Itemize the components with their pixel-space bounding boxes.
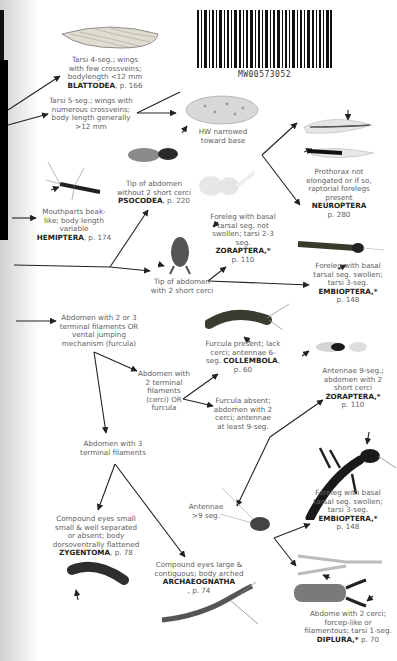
- node-zoraptera-2: Antennae 9-seg.; abdomen with 2 short ce…: [316, 367, 390, 410]
- taxon-name: PSOCODEA: [118, 196, 162, 205]
- node-hw-narrowed: HW narrowed toward base: [195, 128, 251, 145]
- blattodea-wing-image: [60, 22, 160, 52]
- node-hemiptera: Mouthparts beak-like; body length variab…: [36, 208, 112, 242]
- node-text: Foreleg with basal tarsal seg. swollen; …: [313, 261, 382, 287]
- node-text: Foreleg with basal tarsal seg. not swoll…: [210, 212, 275, 247]
- embioptera-winged-image: [296, 232, 386, 262]
- arrow-to-lacewing: [262, 123, 297, 155]
- node-archaeognatha: Compound eyes large & contiguous; body a…: [154, 561, 244, 595]
- node-text: Foreleg with basal tarsal seg. swollen; …: [313, 488, 382, 514]
- barcode-number: MW00573052: [197, 70, 332, 79]
- node-text: Tip of abdomen with 2 short cerci: [151, 277, 213, 295]
- page-edge: [0, 60, 8, 240]
- arrow-to-psocodea: [110, 210, 148, 267]
- taxon-name: DIPLURA,*: [317, 635, 359, 644]
- node-psocodea: Tip of abdomen without 2 short cerci PSO…: [112, 180, 196, 206]
- barcode-icon: [197, 10, 332, 68]
- page-ref: p. 148: [337, 295, 360, 304]
- collembola-image: [205, 302, 293, 338]
- node-text: HW narrowed toward base: [199, 127, 248, 145]
- node-text: Abdome with 2 cerci; forcep-like or fila…: [304, 609, 392, 635]
- pointer-zoraptera2: [302, 351, 309, 356]
- node-text: Furcula absent; abdomen with 2 cerci; an…: [214, 396, 272, 431]
- diplura-forcep-image: [292, 578, 372, 608]
- node-tarsi5: Tarsi 5-seg.; wings with numerous crossv…: [44, 97, 138, 131]
- node-blattodea: Tarsi 4-seg.; wings with few crossveins;…: [66, 56, 144, 90]
- page-ref: p. 110: [232, 255, 255, 264]
- arrow-to-zygentoma: [98, 464, 115, 510]
- abdomen-tip-image: [168, 236, 192, 276]
- page-ref: , p. 166: [115, 81, 142, 90]
- node-diplura: Abdome with 2 cerci; forcep-like or fila…: [303, 610, 393, 644]
- arrow-to-embioptera2: [274, 524, 310, 538]
- node-collembola: Furcula present; lack cerci; antennae 6-…: [205, 340, 281, 374]
- page-ref: p. 148: [337, 522, 360, 531]
- arrow-to-neuroptera: [262, 155, 300, 205]
- node-text: Tip of abdomen without 2 short cerci: [117, 179, 191, 197]
- arrow-to-tip2cerci: [110, 267, 150, 271]
- arrow-from-tarsi5-up: [137, 92, 180, 113]
- node-text: Compound eyes large & contiguous; body a…: [155, 560, 244, 578]
- node-text: Compound eyes small small & well separat…: [53, 514, 140, 549]
- node-antennae-9: Antennae >9 seg.: [186, 503, 226, 520]
- node-furcula-absent: Furcula absent; abdomen with 2 cerci; an…: [212, 397, 274, 431]
- node-abdomen-2-or-3: Abdomen with 2 or 3 terminal filaments O…: [58, 314, 140, 348]
- node-tip-2-cerci: Tip of abdomen with 2 short cerci: [150, 278, 214, 295]
- taxon-name: BLATTODEA: [67, 81, 115, 90]
- pointer-psocodea-hw: [182, 126, 187, 133]
- node-abdomen-2: Abdomen with 2 terminal filaments (cerci…: [136, 370, 192, 413]
- pointer-tip: [158, 264, 164, 266]
- page-ref: , p. 220: [162, 196, 189, 205]
- node-embioptera-2: Foreleg with basal tarsal seg. swollen; …: [310, 489, 386, 532]
- hw-wing-image: [185, 94, 260, 126]
- node-text: Mouthparts beak-like; body length variab…: [42, 207, 105, 233]
- node-text: Abdomen with 3 terminal filaments: [80, 439, 146, 457]
- node-text: Abdomen with 2 terminal filaments (cerci…: [138, 369, 190, 412]
- taxon-name: HEMIPTERA: [37, 233, 84, 242]
- arrow-to-abdomen2: [94, 352, 137, 371]
- arrow-to-diplura: [274, 538, 296, 566]
- lacewing-image: [302, 115, 377, 165]
- psocodea-image: [126, 144, 186, 166]
- zygentoma-image: [66, 558, 136, 590]
- archaeognatha-head-image: [218, 478, 274, 538]
- arrow-to-abdomen3: [94, 352, 106, 433]
- hemiptera-image: [44, 160, 106, 200]
- node-zoraptera-1: Foreleg with basal tarsal seg. not swoll…: [210, 213, 276, 265]
- page-edge-top: [0, 10, 4, 60]
- node-text: Prothorax not elongated or if so, raptor…: [306, 167, 371, 202]
- node-text: Tarsi 4-seg.; wings with few crossveins;…: [68, 55, 142, 81]
- node-text: Antennae 9-seg.; abdomen with 2 short ce…: [322, 366, 384, 392]
- page-ref: , p. 74: [188, 586, 211, 595]
- taxon-name: ZYGENTOMA: [59, 548, 110, 557]
- node-text: Antennae >9 seg.: [189, 502, 224, 520]
- node-text: Abdomen with 2 or 3 terminal filaments O…: [60, 313, 139, 348]
- zoraptera-winged-image: [197, 168, 255, 204]
- diplura-filamentous-image: [296, 552, 386, 576]
- node-text: Tarsi 5-seg.; wings with numerous crossv…: [49, 96, 133, 131]
- page-ref: p. 280: [328, 210, 351, 219]
- pointer-zygentoma: [76, 590, 78, 600]
- zoraptera-wingless-image: [312, 333, 380, 363]
- arrow-to-embioptera1: [208, 281, 309, 285]
- node-embioptera-1: Foreleg with basal tarsal seg. swollen; …: [305, 262, 391, 305]
- page-ref: , p. 174: [84, 233, 111, 242]
- node-neuroptera: Prothorax not elongated or if so, raptor…: [300, 168, 378, 220]
- node-zygentoma: Compound eyes small small & well separat…: [52, 515, 140, 558]
- node-abdomen-3: Abdomen with 3 terminal filaments: [76, 440, 150, 457]
- page-ref: p. 110: [342, 400, 365, 409]
- page-ref: , p. 78: [110, 548, 133, 557]
- page-ref: p. 70: [359, 635, 380, 644]
